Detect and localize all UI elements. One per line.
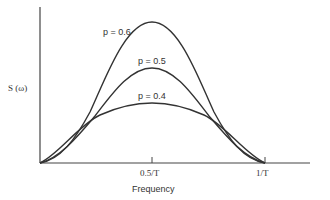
- x-tick-label-half: 0.5/T: [140, 168, 160, 178]
- curve-p-0.4: [40, 103, 265, 163]
- x-tick-label-one: 1/T: [256, 168, 269, 178]
- spectral-density-chart: p = 0.6 p = 0.5 p = 0.4 S (ω) 0.5/T 1/T …: [0, 0, 330, 200]
- curve-p-0.5: [40, 68, 265, 163]
- label-p-0.4: p = 0.4: [138, 91, 166, 101]
- x-axis-label: Frequency: [132, 184, 175, 194]
- label-p-0.5: p = 0.5: [138, 56, 166, 66]
- y-axis-label: S (ω): [8, 83, 27, 93]
- label-p-0.6: p = 0.6: [103, 27, 131, 37]
